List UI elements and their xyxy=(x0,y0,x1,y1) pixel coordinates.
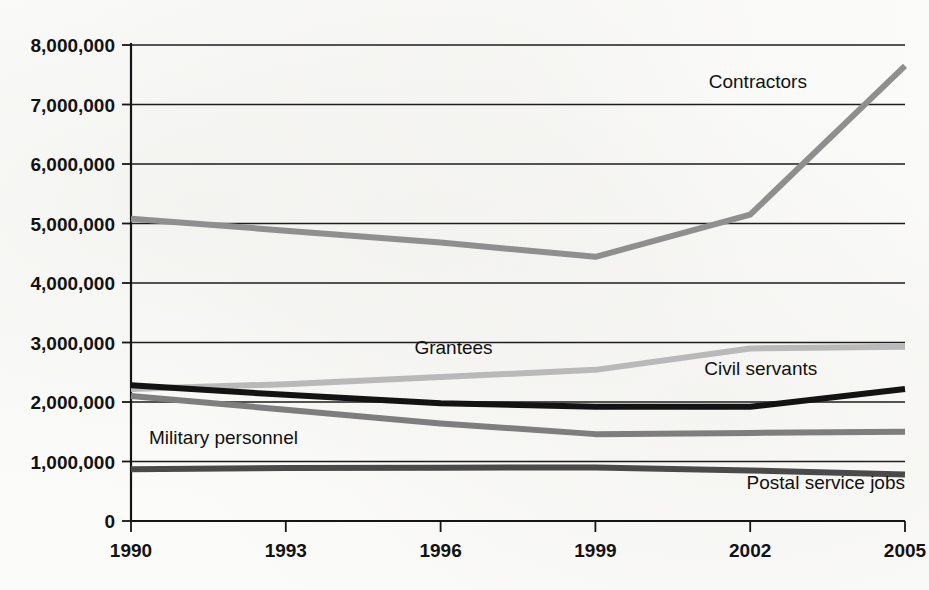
x-tick-label-1990: 1990 xyxy=(110,540,152,561)
x-tick-label-1999: 1999 xyxy=(574,540,616,561)
gridlines-group xyxy=(122,45,905,521)
series-line-contractors xyxy=(131,66,905,257)
line-chart: 01,000,0002,000,0003,000,0004,000,0005,0… xyxy=(0,0,929,590)
axis-group xyxy=(131,43,905,521)
y-tick-label-3000000: 3,000,000 xyxy=(30,333,115,354)
series-label-military-personnel: Military personnel xyxy=(149,427,298,448)
series-label-grantees: Grantees xyxy=(414,337,492,358)
y-tick-label-1000000: 1,000,000 xyxy=(30,452,115,473)
y-tick-label-6000000: 6,000,000 xyxy=(30,154,115,175)
data-series-group xyxy=(131,66,905,475)
x-tick-label-2005: 2005 xyxy=(884,540,927,561)
y-tick-label-7000000: 7,000,000 xyxy=(30,95,115,116)
y-tick-label-4000000: 4,000,000 xyxy=(30,273,115,294)
chart-canvas: 01,000,0002,000,0003,000,0004,000,0005,0… xyxy=(0,0,929,590)
y-tick-label-5000000: 5,000,000 xyxy=(30,214,115,235)
x-tick-labels-group: 199019931996199920022005 xyxy=(110,521,927,561)
y-tick-label-8000000: 8,000,000 xyxy=(30,35,115,56)
x-tick-label-1996: 1996 xyxy=(419,540,461,561)
x-tick-label-2002: 2002 xyxy=(729,540,771,561)
series-label-postal-service-jobs: Postal service jobs xyxy=(747,472,905,493)
y-tick-label-2000000: 2,000,000 xyxy=(30,392,115,413)
x-tick-label-1993: 1993 xyxy=(265,540,307,561)
series-label-civil-servants: Civil servants xyxy=(704,358,817,379)
y-tick-label-0: 0 xyxy=(104,511,115,532)
series-label-contractors: Contractors xyxy=(709,71,807,92)
y-tick-labels-group: 01,000,0002,000,0003,000,0004,000,0005,0… xyxy=(30,35,115,532)
